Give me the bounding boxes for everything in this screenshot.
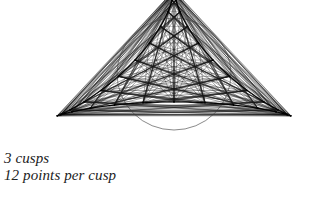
cusp-point-marker bbox=[134, 59, 136, 61]
cusp-point-marker bbox=[212, 59, 214, 61]
caption-line-points: 12 points per cusp bbox=[4, 167, 116, 184]
figure-page: · · · · 3 cusps 12 points per cusp bbox=[0, 0, 309, 197]
cusp-point-marker bbox=[246, 90, 248, 92]
cusp-point-marker bbox=[69, 109, 71, 111]
cusp-point-marker bbox=[89, 108, 91, 110]
cusp-point-marker bbox=[204, 102, 206, 104]
cusp-point-marker bbox=[275, 111, 277, 113]
cusp-point-marker bbox=[100, 90, 102, 92]
cusp-point-marker bbox=[160, 26, 162, 28]
cusp-point-marker bbox=[173, 101, 175, 103]
cusp-point-marker bbox=[167, 11, 169, 13]
caption-line-cusps: 3 cusps bbox=[4, 150, 116, 167]
caption-block: 3 cusps 12 points per cusp bbox=[4, 150, 116, 184]
cusp-point-marker bbox=[290, 115, 292, 117]
cusp-point-marker bbox=[179, 11, 181, 13]
cusp-point-marker bbox=[56, 115, 58, 117]
cusp-point-marker bbox=[149, 42, 151, 44]
cusp-point-marker bbox=[83, 101, 85, 103]
cusp-point-marker bbox=[60, 114, 62, 116]
cusp-point-marker bbox=[113, 104, 115, 106]
cusp-point-marker bbox=[142, 102, 144, 104]
cusp-point-marker bbox=[233, 104, 235, 106]
cusp-point-marker bbox=[71, 111, 73, 113]
cusp-point-marker bbox=[277, 109, 279, 111]
cusp-point-marker bbox=[118, 75, 120, 77]
cusp-point-marker bbox=[229, 75, 231, 77]
cusp-point-marker bbox=[198, 42, 200, 44]
cusp-point-marker bbox=[257, 108, 259, 110]
cusp-point-marker bbox=[263, 101, 265, 103]
cusp-point-marker bbox=[187, 26, 189, 28]
cusp-point-marker bbox=[286, 114, 288, 116]
